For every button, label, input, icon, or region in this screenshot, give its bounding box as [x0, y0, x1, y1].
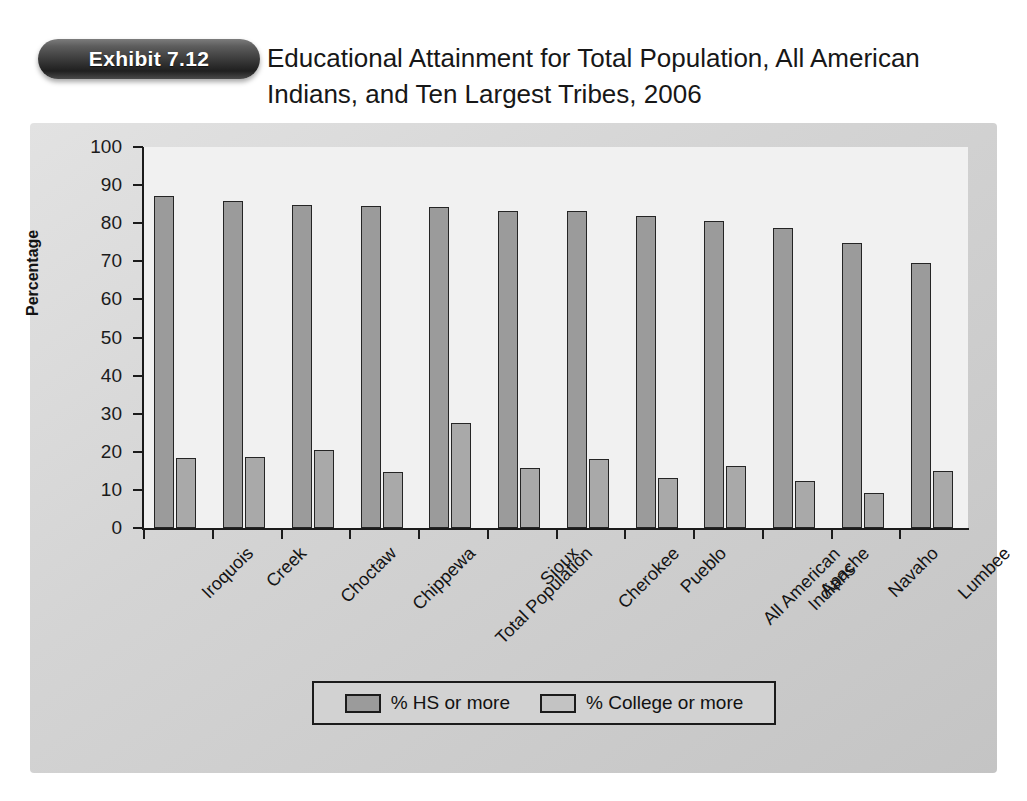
y-tick-label: 30: [76, 403, 122, 425]
legend-swatch-hs-icon: [345, 694, 381, 713]
x-tick: [281, 528, 283, 539]
y-tick-label: 40: [76, 365, 122, 387]
x-tick: [556, 528, 558, 539]
bar: [383, 472, 403, 528]
legend-label-college: % College or more: [586, 692, 743, 714]
y-tick-label: 60: [76, 288, 122, 310]
bar: [292, 205, 312, 528]
x-tick: [349, 528, 351, 539]
y-tick: [133, 489, 143, 491]
bar: [520, 468, 540, 528]
exhibit-badge-label: Exhibit 7.12: [89, 47, 209, 71]
legend-swatch-college-icon: [540, 694, 576, 713]
y-tick: [133, 260, 143, 262]
chart-card: Percentage 0102030405060708090100 Iroquo…: [30, 123, 997, 773]
x-tick: [831, 528, 833, 539]
exhibit-badge: Exhibit 7.12: [38, 39, 260, 79]
bar: [773, 228, 793, 528]
x-category-label: Creek: [262, 543, 311, 592]
bar: [795, 481, 815, 528]
bar: [361, 206, 381, 528]
y-tick: [133, 413, 143, 415]
x-tick: [899, 528, 901, 539]
x-tick: [693, 528, 695, 539]
bar: [223, 201, 243, 528]
y-tick-label: 20: [76, 441, 122, 463]
exhibit-title: Educational Attainment for Total Populat…: [267, 40, 1007, 112]
y-tick-label: 50: [76, 327, 122, 349]
y-tick: [133, 298, 143, 300]
legend-item-college: % College or more: [540, 692, 743, 714]
x-category-label: Pueblo: [676, 543, 730, 597]
x-tick: [487, 528, 489, 539]
bar: [589, 459, 609, 528]
exhibit-header: Exhibit 7.12 Educational Attainment for …: [0, 0, 1027, 120]
bar: [498, 211, 518, 528]
x-category-label: Navaho: [884, 543, 943, 602]
y-tick-label: 100: [76, 136, 122, 158]
bar: [658, 478, 678, 528]
legend-item-hs: % HS or more: [345, 692, 510, 714]
x-category-label: Chippewa: [408, 543, 479, 614]
y-tick: [133, 527, 143, 529]
y-tick: [133, 222, 143, 224]
chart-legend: % HS or more % College or more: [312, 681, 776, 725]
legend-label-hs: % HS or more: [391, 692, 510, 714]
y-tick-label: 10: [76, 479, 122, 501]
x-tick: [143, 528, 145, 539]
bar: [842, 243, 862, 528]
bar: [911, 263, 931, 528]
x-category-label: Lumbee: [954, 543, 1015, 604]
x-category-label: Choctaw: [337, 543, 401, 607]
y-tick: [133, 375, 143, 377]
bar: [176, 458, 196, 528]
y-tick: [133, 184, 143, 186]
x-category-label: Cherokee: [614, 543, 684, 613]
bar: [314, 450, 334, 528]
x-tick: [418, 528, 420, 539]
bar: [451, 423, 471, 528]
chart-plot-wrapper: Percentage 0102030405060708090100 Iroquo…: [30, 123, 997, 773]
bar: [429, 207, 449, 528]
exhibit-page: Exhibit 7.12 Educational Attainment for …: [0, 0, 1027, 801]
bar: [704, 221, 724, 528]
bar: [933, 471, 953, 528]
x-tick: [624, 528, 626, 539]
y-tick-label: 70: [76, 250, 122, 272]
x-tick: [212, 528, 214, 539]
x-tick: [762, 528, 764, 539]
y-tick-label: 80: [76, 212, 122, 234]
bar: [636, 216, 656, 528]
bar: [154, 196, 174, 528]
y-tick-label: 90: [76, 174, 122, 196]
y-tick: [133, 337, 143, 339]
y-tick-label: 0: [76, 517, 122, 539]
bar: [864, 493, 884, 528]
bar: [726, 466, 746, 528]
y-tick: [133, 146, 143, 148]
bar: [567, 211, 587, 528]
y-tick: [133, 451, 143, 453]
y-axis-title: Percentage: [24, 230, 42, 316]
x-category-label: Iroquois: [198, 543, 258, 603]
bar: [245, 457, 265, 528]
